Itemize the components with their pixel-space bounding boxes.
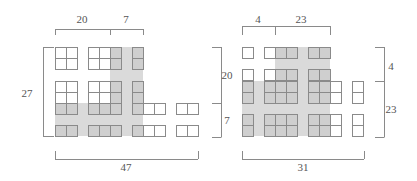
right-gray-cell [320,93,331,104]
right-gray-cell [287,115,298,126]
dimension-label-left-top-20: 20 [77,14,88,25]
right-gray-cell [287,82,298,93]
right-gray-cell [276,48,287,59]
dimension-label-left-top-7: 7 [123,14,129,25]
right-white-cell [243,70,254,81]
right-gray-cell [320,70,331,81]
left-white-cell [100,93,111,104]
dimension-label-right-top-4: 4 [255,14,261,25]
left-gray-cell [133,48,144,59]
left-white-cell [67,93,78,104]
right-white-cell [331,93,342,104]
left-white-cell [67,59,78,70]
left-gray-cell [133,59,144,70]
dimension-label-left-right-7: 7 [224,115,230,126]
left-gray-cell [100,104,111,115]
right-gray-cell [265,126,276,137]
right-gray-cell [309,82,320,93]
left-gray-cell [67,104,78,115]
left-gray-cell [133,126,144,137]
right-gray-cell [320,115,331,126]
left-white-cell [67,48,78,59]
left-white-cell [188,126,199,137]
left-white-cell [100,59,111,70]
left-gray-cell [111,126,122,137]
dimension-label-right-bottom-31: 31 [298,162,309,173]
left-white-cell [188,104,199,115]
right-gray-cell [320,126,331,137]
right-gray-cell [265,115,276,126]
dimension-label-right-top-23: 23 [296,14,307,25]
left-gray-cell [100,126,111,137]
left-white-cell [89,59,100,70]
left-gray-cell [133,104,144,115]
right-white-cell [243,48,254,59]
left-gray-cell [111,82,122,93]
right-gray-cell [320,82,331,93]
right-gray-cell [309,115,320,126]
right-gray-cell [276,126,287,137]
left-white-cell [155,104,166,115]
dimension-label-right-right-4: 4 [388,61,394,72]
left-white-cell [89,93,100,104]
right-gray-cell [309,126,320,137]
left-gray-cell [89,126,100,137]
left-gray-cell [111,104,122,115]
left-white-cell [56,48,67,59]
right-gray-cell [243,115,254,126]
right-gray-cell [243,126,254,137]
left-gray-cell [133,82,144,93]
right-white-cell [331,115,342,126]
left-white-cell [144,126,155,137]
left-white-cell [177,126,188,137]
left-gray-cell [111,48,122,59]
left-white-cell [155,126,166,137]
left-gray-cell [67,126,78,137]
left-white-cell [144,104,155,115]
left-white-cell [67,82,78,93]
right-gray-cell [276,70,287,81]
left-white-cell [177,104,188,115]
dimension-label-left-bottom-47: 47 [121,162,132,173]
right-gray-cell [276,115,287,126]
right-white-cell [331,126,342,137]
right-gray-cell [265,82,276,93]
right-gray-cell [320,48,331,59]
left-white-cell [100,82,111,93]
left-gray-cell [111,93,122,104]
right-gray-cell [287,93,298,104]
right-gray-cell [276,82,287,93]
block-diagram [0,0,417,181]
diagram-stage: 207272074742342331 [0,0,417,181]
right-white-cell [353,115,364,126]
left-gray-cell [56,126,67,137]
right-gray-cell [309,70,320,81]
right-gray-cell [265,93,276,104]
right-white-cell [265,70,276,81]
dimension-label-left-right-20: 20 [222,70,233,81]
right-white-cell [353,126,364,137]
left-gray-cell [111,59,122,70]
dimension-label-left-side-27: 27 [22,88,33,99]
right-white-cell [353,82,364,93]
right-white-cell [265,48,276,59]
right-gray-cell [243,82,254,93]
left-white-cell [100,48,111,59]
right-gray-cell [276,93,287,104]
right-gray-cell [309,48,320,59]
right-gray-cell [287,126,298,137]
right-gray-cell [243,93,254,104]
right-white-cell [353,93,364,104]
left-gray-cell [56,104,67,115]
left-white-cell [56,59,67,70]
right-gray-cell [309,93,320,104]
left-white-cell [89,48,100,59]
left-gray-cell [133,93,144,104]
left-white-cell [89,82,100,93]
right-gray-cell [287,70,298,81]
left-white-cell [56,82,67,93]
left-gray-cell [89,104,100,115]
dimension-label-right-right-23: 23 [386,104,397,115]
left-white-cell [56,93,67,104]
right-gray-cell [287,48,298,59]
